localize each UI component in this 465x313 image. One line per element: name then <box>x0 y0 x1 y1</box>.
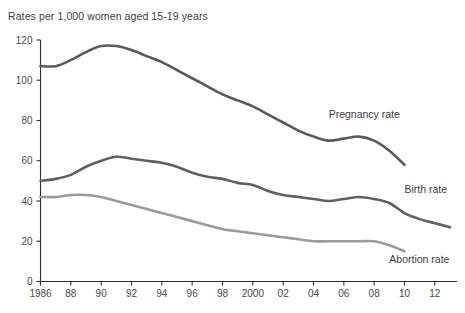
x-axis-tick-label: 06 <box>338 288 350 299</box>
x-axis-tick-label: 1986 <box>29 288 52 299</box>
x-axis-tick-label: 10 <box>399 288 411 299</box>
y-axis-group: 020406080100120 <box>16 35 41 288</box>
data-line-pregnancy-rate <box>41 45 405 164</box>
x-axis-tick-label: 98 <box>217 288 229 299</box>
x-axis-tick-label: 96 <box>187 288 199 299</box>
x-axis-tick-label: 04 <box>308 288 320 299</box>
x-axis-tick-label: 90 <box>96 288 108 299</box>
series-label-pregnancy-rate: Pregnancy rate <box>329 108 400 120</box>
y-axis-tick-label: 0 <box>27 276 33 287</box>
chart-container: Rates per 1,000 women aged 15-19 years 0… <box>0 0 465 313</box>
data-line-birth-rate <box>41 157 451 227</box>
x-axis-tick-label: 2000 <box>242 288 265 299</box>
y-axis-tick-label: 40 <box>21 196 33 207</box>
chart-plot-area: 020406080100120 198688909294969820000204… <box>0 0 465 313</box>
series-label-birth-rate: Birth rate <box>405 183 448 195</box>
data-line-abortion-rate <box>41 195 405 252</box>
y-axis-tick-label: 120 <box>16 35 33 46</box>
x-axis-tick-label: 02 <box>278 288 290 299</box>
x-axis-tick-label: 88 <box>65 288 77 299</box>
x-axis-tick-label: 08 <box>369 288 381 299</box>
y-axis-tick-label: 60 <box>21 155 33 166</box>
x-axis-tick-label: 94 <box>156 288 168 299</box>
x-axis-group: 19868890929496982000020406081012 <box>29 282 440 299</box>
x-axis-tick-label: 12 <box>429 288 441 299</box>
y-axis-tick-label: 20 <box>21 236 33 247</box>
y-axis-tick-label: 100 <box>16 75 33 86</box>
series-label-abortion-rate: Abortion rate <box>389 253 449 265</box>
x-axis-tick-label: 92 <box>126 288 138 299</box>
y-axis-tick-label: 80 <box>21 115 33 126</box>
series-lines-group <box>41 45 451 251</box>
